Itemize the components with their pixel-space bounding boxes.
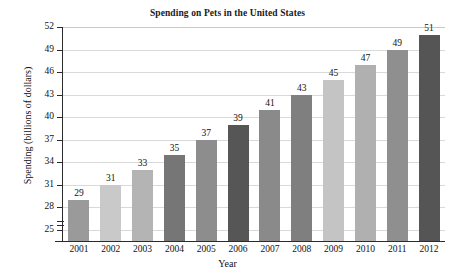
x-axis-tick-label: 2011: [379, 244, 415, 254]
y-axis-tick-label: 31: [28, 179, 54, 189]
bar: [196, 140, 217, 241]
x-axis-tick-label: 2001: [61, 244, 97, 254]
bar: [291, 95, 312, 241]
y-axis-tick-label: 49: [28, 44, 54, 54]
bar-group: 49: [387, 27, 408, 241]
bars-container: 293133353739414345474951: [63, 27, 445, 241]
bar: [132, 170, 153, 241]
bar-group: 37: [196, 27, 217, 241]
bar-group: 41: [259, 27, 280, 241]
bar: [355, 65, 376, 241]
y-axis-tick-label: 34: [28, 156, 54, 166]
bar: [68, 200, 89, 241]
y-axis-tick-label: 25: [28, 224, 54, 234]
bar-group: 47: [355, 27, 376, 241]
bar: [228, 125, 249, 241]
bar: [419, 35, 440, 241]
bar-chart: Spending on Pets in the United States Sp…: [0, 0, 455, 274]
bar-group: 29: [68, 27, 89, 241]
x-axis-tick-label: 2005: [188, 244, 224, 254]
bar-value-label: 45: [316, 68, 351, 78]
bar-value-label: 51: [412, 23, 447, 33]
bar-group: 39: [228, 27, 249, 241]
bar: [259, 110, 280, 241]
bar-value-label: 33: [125, 158, 160, 168]
x-axis-tick-label: 2009: [316, 244, 352, 254]
bar-group: 43: [291, 27, 312, 241]
x-axis-title: Year: [0, 258, 455, 269]
x-axis-tick-label: 2004: [156, 244, 192, 254]
bar-group: 45: [323, 27, 344, 241]
bar-group: 35: [164, 27, 185, 241]
x-axis-tick-label: 2008: [284, 244, 320, 254]
bar: [100, 185, 121, 241]
y-axis-tick-label: 43: [28, 89, 54, 99]
bar: [323, 80, 344, 241]
x-axis-tick-label: 2006: [220, 244, 256, 254]
x-axis-tick-label: 2002: [93, 244, 129, 254]
bar: [164, 155, 185, 241]
bar: [387, 50, 408, 241]
x-axis-tick-label: 2007: [252, 244, 288, 254]
bar-value-label: 47: [348, 53, 383, 63]
bar-value-label: 39: [221, 113, 256, 123]
x-axis-line: [55, 241, 445, 242]
bar-value-label: 31: [93, 173, 128, 183]
bar-value-label: 35: [157, 143, 192, 153]
bar-value-label: 41: [252, 98, 287, 108]
bar-group: 31: [100, 27, 121, 241]
x-axis-tick-label: 2003: [125, 244, 161, 254]
bar-value-label: 37: [189, 128, 224, 138]
bar-group: 51: [419, 27, 440, 241]
y-axis-tick-label: 28: [28, 201, 54, 211]
bar-value-label: 49: [380, 38, 415, 48]
bar-value-label: 43: [284, 83, 319, 93]
y-axis-tick-label: 46: [28, 66, 54, 76]
y-axis-tick-label: 37: [28, 134, 54, 144]
x-axis-tick-label: 2010: [347, 244, 383, 254]
bar-group: 33: [132, 27, 153, 241]
y-axis-tick-label: 52: [28, 21, 54, 31]
y-axis-tick-label: 40: [28, 111, 54, 121]
bar-value-label: 29: [61, 188, 96, 198]
x-axis-tick-label: 2012: [411, 244, 447, 254]
